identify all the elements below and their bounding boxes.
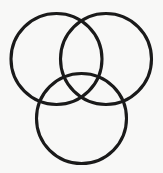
venn-diagram-canvas [0, 0, 163, 173]
venn-diagram-svg [0, 0, 163, 173]
